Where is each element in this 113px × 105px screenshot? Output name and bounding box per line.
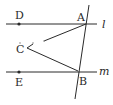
label-line-l: l — [102, 18, 106, 31]
label-c: C — [16, 43, 24, 56]
label-e: E — [15, 76, 23, 89]
label-b: B — [79, 75, 87, 88]
angle-mark-c — [27, 44, 33, 48]
label-d: D — [15, 9, 24, 22]
point-marker — [43, 40, 45, 42]
label-a: A — [76, 11, 86, 24]
segment-c-b — [27, 48, 78, 71]
point-e — [17, 70, 20, 73]
segment-a-c — [44, 24, 86, 41]
point-d — [17, 22, 20, 25]
label-line-m: m — [99, 65, 109, 78]
geometry-diagram: D E A B C l m — [0, 0, 113, 105]
point-marker — [32, 42, 34, 44]
